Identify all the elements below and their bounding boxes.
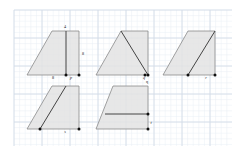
vertex-dot	[78, 74, 81, 77]
figure-t: qt	[96, 79, 152, 131]
vertex-dot	[39, 128, 42, 131]
triangle-inside-trapezoid	[96, 31, 148, 75]
figure-label-s: s	[64, 129, 66, 134]
figure-label-t: t	[150, 120, 152, 125]
vertex-dot	[65, 74, 68, 77]
geometry-figure-canvas: 488pqrsqt	[0, 0, 246, 153]
figure-r: r	[163, 31, 217, 80]
vertex-dot	[147, 113, 150, 116]
trapezoid-with-horizontal-segment	[96, 86, 148, 129]
dimension-label: q	[146, 79, 149, 84]
dimension-label: 8	[82, 51, 84, 56]
vertex-dot	[147, 128, 150, 131]
vertex-dot	[214, 74, 217, 77]
figure-q: q	[96, 31, 150, 80]
dimension-label: 4	[64, 24, 67, 29]
trapezoid-with-height-segment	[27, 31, 79, 75]
parallelogram-with-diagonal	[163, 31, 215, 75]
figure-s: s	[27, 86, 81, 134]
shapes-layer: 488pqrsqt	[0, 0, 246, 153]
figure-label-p: p	[69, 75, 72, 80]
vertex-dot	[78, 128, 81, 131]
figure-label-q: q	[143, 75, 145, 80]
vertex-dot	[187, 74, 190, 77]
vertex-dot	[147, 74, 150, 77]
figure-label-r: r	[205, 75, 207, 80]
figure-p: 488p	[27, 24, 84, 80]
dimension-label: 8	[52, 75, 54, 80]
